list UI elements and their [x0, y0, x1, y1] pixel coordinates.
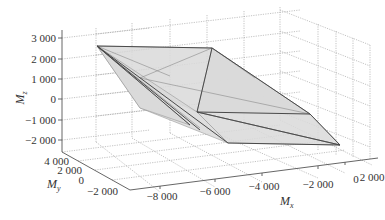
z-tick-labels: 3 000 2 000 1 000 0 −1 000 −2 000 — [25, 32, 56, 146]
z-tick: 3 000 — [31, 32, 56, 44]
x-tick: −6 000 — [200, 185, 231, 197]
moment-3d-plot: 3 000 2 000 1 000 0 −1 000 −2 000 Mz 4 0… — [0, 0, 385, 220]
z-tick: 1 000 — [31, 73, 56, 85]
y-tick: 0 — [79, 174, 85, 186]
x-tick-labels: −8 000 −6 000 −4 000 −2 000 0 0 2 000 — [147, 171, 385, 202]
x-tick: 2 000 — [360, 171, 385, 183]
z-tick: −2 000 — [25, 134, 56, 146]
x-tick: −2 000 — [303, 178, 334, 190]
x-tick: −4 000 — [249, 180, 280, 192]
x-axis-label: Mx — [279, 194, 294, 210]
y-tick: −2 000 — [87, 185, 118, 197]
attainable-moment-polyhedron — [97, 46, 340, 145]
z-tick: −1 000 — [25, 114, 56, 126]
z-tick: 2 000 — [31, 53, 56, 65]
y-axis-label: My — [46, 177, 61, 193]
z-axis-label: Mz — [13, 91, 29, 106]
z-tick: 0 — [51, 93, 57, 105]
x-tick: −8 000 — [147, 190, 178, 202]
x-tick: 0 — [353, 173, 359, 185]
